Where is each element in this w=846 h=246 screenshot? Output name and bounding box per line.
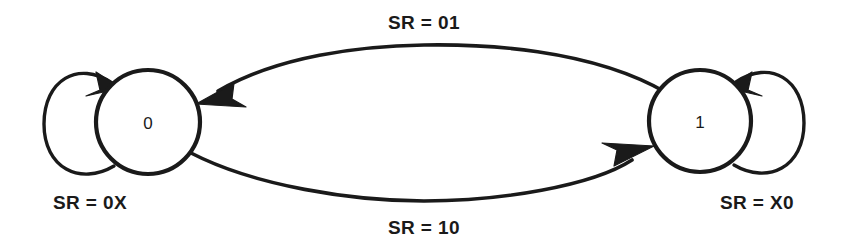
edge-label-arc-1-to-0: SR = 01 [388,12,460,33]
state-0-label: 0 [143,114,152,133]
state-diagram-canvas: 0 1 SR = 0X SR = 10 SR = 01 SR = X0 [0,0,846,246]
arc-1-to-0-arrowhead-icon [196,83,246,107]
edge-label-arc-0-to-1: SR = 10 [388,217,460,238]
state-1-label: 1 [695,113,704,132]
state-node-1[interactable]: 1 [649,70,751,172]
arc-1-to-0-path [218,45,667,93]
state-diagram-svg: 0 1 SR = 0X SR = 10 SR = 01 SR = X0 [0,0,846,246]
state-node-0[interactable]: 0 [96,70,200,174]
transition-0-to-1[interactable] [191,143,654,201]
edge-label-self-loop-1: SR = X0 [720,192,794,213]
transition-1-to-0[interactable] [196,45,667,107]
arc-0-to-1-path [191,153,632,201]
edge-label-self-loop-0: SR = 0X [53,192,127,213]
